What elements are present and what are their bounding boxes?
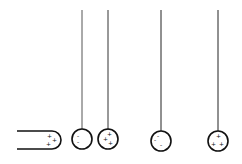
- sphere-4-charge: +: [219, 140, 224, 147]
- sphere-1: - -: [72, 129, 92, 149]
- charged-rod: + + +: [17, 131, 61, 149]
- induction-diagram: + + + - - + + + - - - + + +: [0, 0, 242, 164]
- sphere-3: - - -: [151, 131, 171, 151]
- rod-charge: +: [46, 140, 51, 147]
- sphere-1-charge: -: [77, 138, 79, 145]
- sphere-3-charge: -: [157, 132, 159, 139]
- sphere-4: + + +: [208, 131, 228, 151]
- sphere-4-charge: +: [216, 132, 221, 139]
- rod-charge: +: [52, 136, 57, 143]
- sphere-3-charge: -: [154, 136, 156, 143]
- sphere-3-charge: -: [160, 141, 162, 148]
- sphere-4-charge: +: [211, 140, 216, 147]
- sphere-2-charge: +: [108, 139, 113, 146]
- sphere-2: + + +: [98, 129, 118, 149]
